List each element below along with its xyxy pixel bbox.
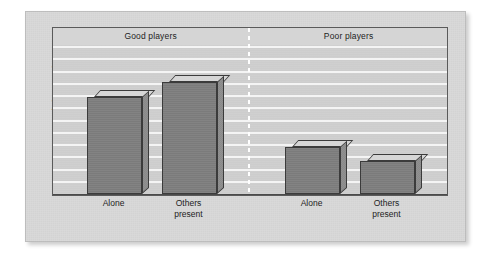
bar-poor-others-present [360, 161, 415, 194]
chart-plot-area: Good players Poor players [52, 27, 448, 196]
bar-side-face [415, 155, 422, 194]
bar-good-alone [87, 97, 142, 194]
x-axis-baseline [53, 194, 447, 195]
group-title-good-players: Good players [53, 31, 248, 41]
bar-side-face [217, 76, 224, 194]
bar-front-face [162, 82, 217, 194]
category-label-poor-others-present: Others present [345, 198, 428, 220]
bar-front-face [360, 161, 415, 194]
bar-poor-alone [285, 147, 340, 194]
category-label-good-others-present: Others present [147, 198, 230, 220]
y-axis-title-container: Percentage of shots made [36, 27, 50, 196]
bar-side-face [340, 141, 347, 194]
category-label-good-alone: Alone [72, 198, 155, 209]
bar-side-face [142, 91, 149, 194]
bar-front-face [87, 97, 142, 194]
category-label-poor-alone: Alone [270, 198, 353, 209]
chart-screenshot: Percentage of shots made Good players Po… [0, 0, 490, 260]
bar-front-face [285, 147, 340, 194]
group-title-poor-players: Poor players [248, 31, 448, 41]
bar-good-others-present [162, 82, 217, 194]
group-divider-dashed-line [248, 28, 250, 195]
